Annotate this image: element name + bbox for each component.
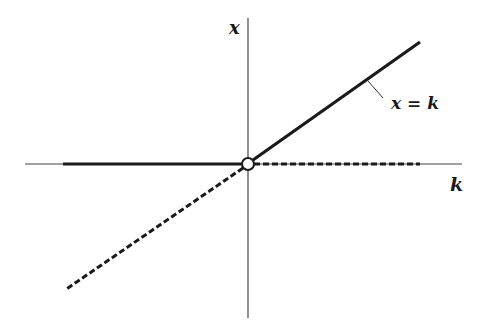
curve-label-x-equals-k: x = k [390,93,439,113]
label-leader-line [368,81,383,98]
bifurcation-point [242,158,254,170]
unstable-branch-x-equals-k [65,168,243,290]
horizontal-axis-label: k [450,173,463,195]
vertical-axis-label: x [228,17,240,38]
bifurcation-diagram: x k x = k [0,0,490,325]
